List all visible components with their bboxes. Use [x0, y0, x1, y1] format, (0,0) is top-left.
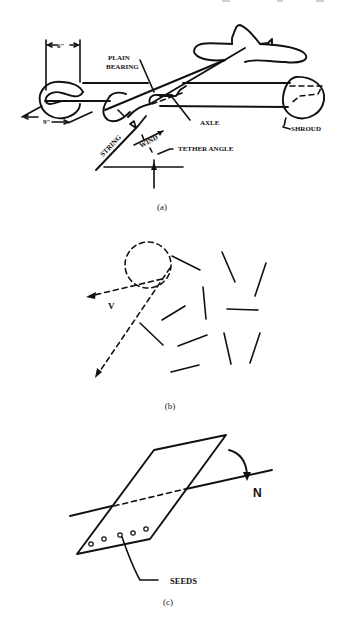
plain-bearing-label-line2: BEARING: [106, 63, 139, 71]
arrowhead-left: [86, 292, 96, 299]
scattered-seeds: [140, 252, 266, 372]
tether-angle-label: TETHER ANGLE: [178, 145, 234, 153]
wind-label: WIND: [138, 133, 159, 149]
velocity-label: V: [108, 301, 115, 311]
axle-label: AXLE: [200, 119, 220, 127]
dimension-6in-label: 6": [57, 42, 65, 50]
figure-canvas: 6" 9" PLAIN BEARING AXLE SHROUD STRING W…: [0, 0, 338, 623]
rotation-arrow: [229, 450, 247, 474]
rotation-label: N: [253, 486, 262, 500]
left-blade: [104, 93, 130, 122]
dashed-circle: [125, 242, 171, 288]
shroud-label: SHROUD: [291, 125, 321, 133]
panel-a-diagram: 6" 9" PLAIN BEARING AXLE SHROUD STRING W…: [22, 25, 324, 188]
seeds-label: SEEDS: [170, 576, 197, 586]
tether-angle-marker: [104, 149, 183, 188]
axle-leader: [172, 97, 190, 120]
kite-tail: [194, 25, 306, 63]
seed-plate: [77, 435, 226, 554]
shroud-ring: [283, 77, 324, 129]
panel-b-caption: (b): [165, 401, 176, 411]
plain-bearing-label-line1: PLAIN: [108, 54, 130, 62]
top-edge-fragments: [222, 0, 324, 2]
axis-hidden: [114, 489, 185, 506]
seed-holes: [89, 527, 148, 546]
panel-c-diagram: N SEEDS: [70, 435, 272, 586]
dimension-9in: [22, 106, 92, 124]
panel-b-diagram: V: [86, 242, 266, 378]
panel-c-caption: (c): [163, 597, 173, 607]
dimension-9in-label: 9": [43, 118, 51, 126]
left-rotor-end: [40, 82, 110, 119]
panel-a-caption: (a): [157, 202, 167, 212]
